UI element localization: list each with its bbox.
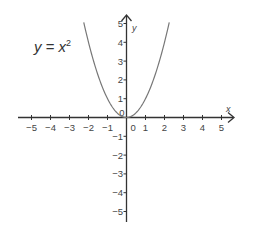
parabola-plot: xy−5−4−3−2−112345−5−4−3−2−11234500 [0,0,261,230]
x-tick-label: 4 [200,122,205,133]
y-tick-label: 5 [118,18,123,29]
x-tick-label: 2 [162,122,167,133]
y-tick-label: 1 [118,93,123,104]
y-tick-label: 3 [118,56,123,67]
y-tick-label: 4 [118,37,123,48]
x-tick-label: −3 [64,122,75,133]
equation-lhs: y [34,38,42,55]
y-axis-label: y [131,23,137,33]
origin-label-x: 0 [131,122,136,133]
x-tick-label: 1 [143,122,148,133]
y-tick-label: −1 [112,131,123,142]
y-tick-label: −2 [112,150,123,161]
x-tick-label: 5 [219,122,224,133]
y-tick-label: −4 [112,187,123,198]
equation-exponent: 2 [66,38,71,48]
x-tick-label: −2 [83,122,94,133]
y-tick-label: 2 [118,74,123,85]
x-tick-label: 3 [181,122,186,133]
x-axis-label: x [225,104,231,114]
x-tick-label: −5 [26,122,37,133]
equation-label: y = x2 [34,38,71,55]
equation-equals: = [46,38,55,55]
y-tick-label: −3 [112,168,123,179]
y-tick-label: −5 [112,206,123,217]
x-tick-label: −4 [45,122,56,133]
equation-base: x [59,38,67,55]
